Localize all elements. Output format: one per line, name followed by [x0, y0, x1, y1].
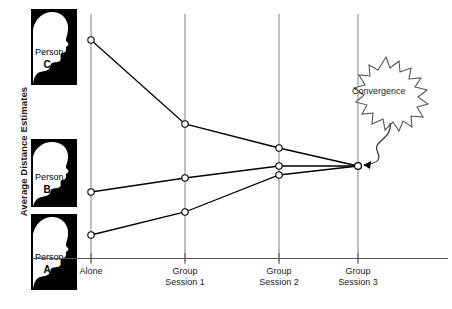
data-point: [182, 209, 188, 215]
series-person-c: [88, 37, 358, 166]
x-tick-label-alone: Alone: [61, 266, 121, 277]
plot-area: [0, 0, 452, 309]
convergence-arrow-icon: [364, 123, 391, 169]
data-point: [88, 189, 94, 195]
data-point: [88, 37, 94, 43]
data-point: [182, 121, 188, 127]
x-axis: [32, 253, 448, 264]
data-point: [276, 145, 282, 151]
data-point: [182, 175, 188, 181]
x-tick-label-group-session-1: Group Session 1: [150, 266, 220, 287]
series-person-b: [88, 163, 358, 195]
x-tick-label-group-session-2: Group Session 2: [244, 266, 314, 287]
convergence-annotation-label: Convergence: [352, 86, 406, 96]
data-point: [276, 163, 282, 169]
convergence-data-point: [355, 163, 362, 170]
x-tick-label-group-session-3: Group Session 3: [323, 266, 393, 287]
autokinetic-convergence-figure: Average Distance Estimates Person C Pers…: [0, 0, 452, 309]
data-point: [276, 172, 282, 178]
series-person-a: [88, 166, 358, 238]
data-point: [88, 232, 94, 238]
